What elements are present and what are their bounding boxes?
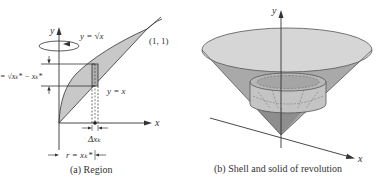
curve-linear-label: y = x (106, 86, 126, 96)
x-axis-label: x (154, 117, 160, 128)
curve-sqrt-extension (147, 19, 162, 29)
delta-arrow-right-icon (88, 127, 92, 130)
x-axis-arrow-icon (144, 121, 152, 126)
height-arrow-up-icon (47, 86, 50, 91)
delta-x-label: Δxₖ (87, 134, 101, 144)
radius-arrow-left-icon (95, 154, 99, 157)
x-axis-label: x (357, 153, 363, 164)
rotation-arrowhead-icon (63, 42, 70, 47)
delta-arrow-left-icon (98, 127, 102, 130)
solid-diagram: y x (190, 0, 377, 184)
height-arrow-down-icon (47, 60, 50, 65)
height-label: h = √xₖ* − xₖ* (0, 72, 42, 81)
curve-sqrt-label: y = √x (79, 31, 104, 41)
y-axis-label: y (271, 5, 277, 16)
radius-arrow-right-icon (55, 154, 59, 157)
region-diagram: y x y = √x y = x (1, 1) h = √xₖ* − xₖ* Δ… (0, 0, 190, 184)
x-axis-arrow-icon (346, 154, 355, 159)
sample-point (93, 121, 97, 125)
region-panel: y x y = √x y = x (1, 1) h = √xₖ* − xₖ* Δ… (0, 0, 190, 184)
y-axis-label: y (49, 25, 55, 36)
point-label: (1, 1) (149, 36, 169, 46)
region-caption: (a) Region (70, 164, 113, 175)
cone-top-surface (202, 28, 372, 72)
solid-caption: (b) Shell and solid of revolution (214, 163, 342, 174)
shaded-region (59, 29, 147, 123)
solid-panel: y x (190, 0, 377, 184)
shell-top-inner (257, 76, 319, 89)
radius-label: r = xₖ* (66, 150, 93, 160)
y-axis-arrow-icon (57, 27, 62, 35)
y-axis-arrow-icon (279, 10, 284, 18)
